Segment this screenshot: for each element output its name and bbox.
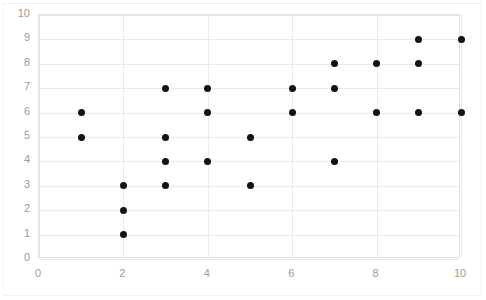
data-point bbox=[289, 109, 296, 116]
data-point bbox=[204, 85, 211, 92]
gridline-horizontal bbox=[39, 88, 459, 89]
data-point bbox=[415, 36, 422, 43]
data-point bbox=[247, 134, 254, 141]
y-axis-tick-label: 0 bbox=[4, 252, 30, 263]
data-point bbox=[204, 109, 211, 116]
gridline-vertical bbox=[461, 15, 462, 257]
data-point bbox=[373, 109, 380, 116]
data-point bbox=[331, 158, 338, 165]
x-axis-tick-label: 0 bbox=[18, 268, 58, 279]
x-axis-tick-label: 2 bbox=[102, 268, 142, 279]
data-point bbox=[120, 182, 127, 189]
x-axis-tick-label: 10 bbox=[440, 268, 480, 279]
x-axis-tick-label: 4 bbox=[187, 268, 227, 279]
gridline-vertical bbox=[39, 15, 40, 257]
gridline-horizontal bbox=[39, 210, 459, 211]
gridline-horizontal bbox=[39, 235, 459, 236]
plot-area bbox=[38, 14, 460, 258]
data-point bbox=[247, 182, 254, 189]
data-point bbox=[331, 85, 338, 92]
data-point bbox=[458, 109, 465, 116]
data-point bbox=[120, 231, 127, 238]
y-axis-tick-label: 7 bbox=[4, 81, 30, 92]
x-axis-tick-label: 8 bbox=[356, 268, 396, 279]
y-axis-tick-label: 10 bbox=[4, 8, 30, 19]
gridline-vertical bbox=[208, 15, 209, 257]
y-axis-tick-label: 3 bbox=[4, 179, 30, 190]
data-point bbox=[373, 60, 380, 67]
y-axis-tick-label: 2 bbox=[4, 203, 30, 214]
data-point bbox=[162, 85, 169, 92]
y-axis-tick-label: 6 bbox=[4, 106, 30, 117]
gridline-vertical bbox=[123, 15, 124, 257]
y-axis-tick-label: 5 bbox=[4, 130, 30, 141]
scatter-chart: 012345678910 0246810 bbox=[0, 0, 486, 300]
gridline-vertical bbox=[377, 15, 378, 257]
data-point bbox=[162, 134, 169, 141]
data-point bbox=[289, 85, 296, 92]
y-axis-tick-label: 9 bbox=[4, 32, 30, 43]
data-point bbox=[162, 158, 169, 165]
data-point bbox=[415, 60, 422, 67]
y-axis-tick-label: 8 bbox=[4, 57, 30, 68]
data-point bbox=[78, 134, 85, 141]
y-axis-tick-label: 4 bbox=[4, 154, 30, 165]
data-point bbox=[78, 109, 85, 116]
gridline-horizontal bbox=[39, 113, 459, 114]
y-axis-tick-label: 1 bbox=[4, 228, 30, 239]
gridline-vertical bbox=[292, 15, 293, 257]
data-point bbox=[120, 207, 127, 214]
data-point bbox=[204, 158, 211, 165]
data-point bbox=[331, 60, 338, 67]
data-point bbox=[162, 182, 169, 189]
gridline-horizontal bbox=[39, 39, 459, 40]
gridline-horizontal bbox=[39, 161, 459, 162]
gridline-horizontal bbox=[39, 64, 459, 65]
gridline-horizontal bbox=[39, 259, 459, 260]
gridline-horizontal bbox=[39, 15, 459, 16]
x-axis-tick-label: 6 bbox=[271, 268, 311, 279]
data-point bbox=[415, 109, 422, 116]
data-point bbox=[458, 36, 465, 43]
